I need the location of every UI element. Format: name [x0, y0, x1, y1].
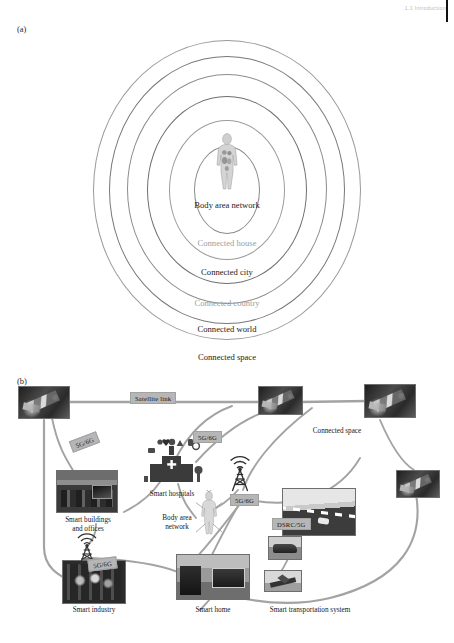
caption-smart-industry: Smart industry [56, 606, 132, 615]
connected-car-photo [268, 536, 302, 560]
tag-5g6g-tower: 5G/6G [230, 494, 259, 506]
ring-label-connected-space: Connected space [198, 352, 256, 362]
tag-5g6g-upper-mid: 5G/6G [193, 431, 222, 443]
running-header-text: 1.1 Introduction [405, 5, 446, 11]
caption-smart-buildings-and-offices: Smart buildings and offices [50, 516, 126, 533]
human-body-figure-icon [210, 132, 244, 192]
ring-label-connected-city: Connected city [201, 267, 253, 277]
tag-satellite-link: Satellite link [130, 392, 176, 404]
caption-body-area-network: Body area network [146, 514, 208, 531]
ring-label-connected-world: Connected world [198, 324, 257, 334]
running-header: 1.1 Introduction [296, 2, 446, 14]
living-room-photo [176, 554, 250, 600]
satellite-photo-left [18, 386, 70, 419]
satellite-photo-right [364, 384, 416, 418]
caption-smart-home: Smart home [178, 606, 248, 615]
satellite-photo-center [258, 386, 303, 415]
tag-dsrc-5g: DSRC/5G [272, 518, 311, 530]
hospital-icon-cluster [136, 438, 208, 486]
caption-smart-hospitals: Smart hospitals [130, 490, 214, 499]
concentric-rings-group: Body area network Connected house Connec… [77, 14, 377, 366]
satellite-photo-right-lower [396, 470, 440, 498]
caption-smart-transportation-system: Smart transportation system [248, 606, 372, 615]
office-photo [56, 470, 118, 513]
cell-tower-icon-right [224, 454, 256, 492]
ring-label-body-area-network: Body area network [194, 200, 259, 210]
ring-label-connected-country: Connected country [194, 298, 259, 308]
panel-b-connectivity-diagram: Satellite link 5G/6G 5G/6G 5G/6G 5G/6G D… [0, 372, 454, 643]
panel-a-concentric-network-diagram: Body area network Connected house Connec… [0, 14, 454, 366]
ring-label-connected-house: Connected house [198, 238, 257, 248]
caption-connected-space: Connected space [292, 427, 382, 436]
aircraft-photo [264, 570, 302, 592]
